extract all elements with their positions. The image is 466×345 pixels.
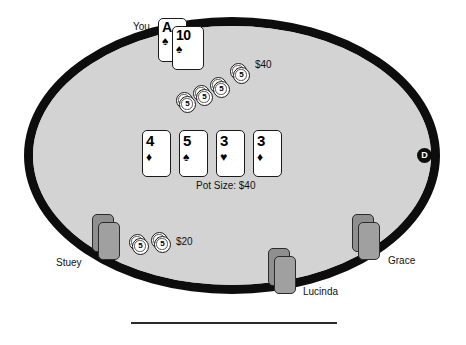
card-rank: 4 [146,133,154,149]
hero-name-label: You [133,22,150,32]
hero-chip-stack-4[interactable]: 5 5 [230,63,249,82]
opponent-name-stuey: Stuey [56,258,82,268]
bottom-divider [131,322,337,324]
poker-chip: 5 [233,67,250,84]
card-rank: 5 [183,133,191,149]
dealer-button[interactable]: D [417,148,432,163]
card-rank: 3 [220,133,228,149]
community-card-3[interactable]: 3 ♥ [216,130,245,177]
poker-chip: 5 [213,81,230,98]
spade-icon: ♠ [176,43,182,55]
poker-chip: 5 [154,236,171,253]
spade-icon: ♠ [183,151,189,163]
poker-chip: 5 [132,238,149,255]
opponent-name-grace: Grace [388,256,415,266]
poker-chip: 5 [179,96,196,113]
poker-chip: 5 [196,89,213,106]
diamond-icon: ♦ [146,151,152,163]
stuey-card-back-2 [98,222,120,260]
stuey-bet-amount: $20 [176,237,193,247]
spade-icon: ♠ [162,35,168,47]
card-rank: 10 [176,28,191,43]
hero-chip-stack-3[interactable]: 5 5 [210,77,229,96]
card-rank: A [162,20,172,35]
diamond-icon: ♦ [257,151,263,163]
poker-table-scene: You A ♠ 10 ♠ 5 5 5 5 5 5 5 5 $40 4 ♦ 5 ♠… [0,0,466,345]
community-card-4[interactable]: 3 ♦ [253,130,282,177]
pot-size-label: Pot Size: $40 [196,181,255,191]
lucinda-card-back-2 [274,256,296,294]
card-rank: 3 [257,133,265,149]
grace-card-back-2 [358,222,380,260]
opponent-name-lucinda: Lucinda [303,287,338,297]
stuey-chip-stack-1[interactable]: 5 5 [129,234,148,253]
stuey-chip-stack-2[interactable]: 5 5 [151,232,170,251]
hero-hole-card-2[interactable]: 10 ♠ [172,26,204,70]
heart-icon: ♥ [220,151,227,163]
community-card-1[interactable]: 4 ♦ [142,130,171,177]
community-card-2[interactable]: 5 ♠ [179,130,208,177]
hero-bet-amount: $40 [255,60,272,70]
